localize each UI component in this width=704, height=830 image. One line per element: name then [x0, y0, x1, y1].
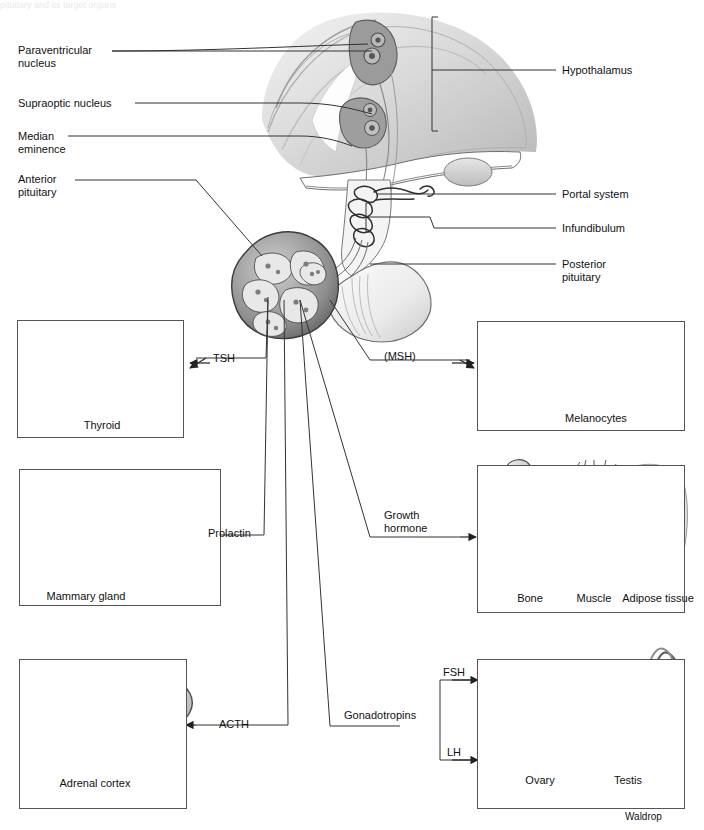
panel-gonads: [477, 659, 685, 809]
label-paraventricular-nucleus: Paraventricular nucleus: [18, 44, 92, 69]
arrow-msh: [460, 360, 474, 368]
caption-bone: Bone: [508, 592, 552, 604]
left-leader-lines: [68, 44, 372, 256]
label-supraoptic-nucleus: Supraoptic nucleus: [18, 97, 112, 110]
label-infundibulum: Infundibulum: [562, 222, 625, 235]
caption-thyroid: Thyroid: [62, 419, 142, 431]
hormone-label-acth: ACTH: [219, 718, 249, 731]
caption-muscle: Muscle: [568, 592, 620, 604]
hormone-arrows: [186, 358, 476, 725]
hormone-label-gonadotropins: Gonadotropins: [344, 709, 416, 722]
artist-signature: Waldrop: [625, 811, 662, 822]
hormone-label-growth-hormone: Growth hormone: [384, 509, 427, 534]
figure-canvas: pituitary and its target organs: [0, 0, 704, 830]
label-median-eminence: Median eminence: [18, 130, 66, 155]
label-posterior-pituitary: Posterior pituitary: [562, 258, 606, 283]
caption-testis: Testis: [600, 774, 656, 786]
label-portal-system: Portal system: [562, 188, 629, 201]
brain-sagittal-illustration: [262, 13, 537, 234]
hormone-label-lh: LH: [447, 746, 461, 759]
right-leader-lines: [366, 17, 556, 264]
infundibulum-and-portal-system: [232, 180, 434, 342]
hypothalamus-bracket: [432, 17, 438, 131]
infundibulum-bracket: [366, 203, 370, 232]
leader-infundibulum: [366, 217, 556, 228]
label-anterior-pituitary: Anterior pituitary: [18, 173, 57, 198]
caption-mammary-gland: Mammary gland: [40, 590, 132, 602]
hormone-label-fsh: FSH: [443, 666, 465, 679]
caption-ovary: Ovary: [512, 774, 568, 786]
panel-growth-targets: [477, 465, 685, 613]
leader-tsh: [206, 297, 268, 358]
caption-adrenal-cortex: Adrenal cortex: [48, 777, 142, 789]
figure-top-cutoff-text: pituitary and its target organs: [0, 0, 116, 10]
leader-growth-hormone: [300, 300, 460, 537]
caption-adipose-tissue: Adipose tissue: [618, 592, 698, 604]
hormone-label-msh: (MSH): [384, 350, 416, 363]
caption-melanocytes: Melanocytes: [559, 412, 633, 424]
panel-mammary: [19, 469, 221, 606]
label-hypothalamus: Hypothalamus: [562, 64, 632, 77]
arrow-tsh: [190, 358, 206, 368]
hormone-label-prolactin: Prolactin: [208, 527, 251, 540]
hormone-label-tsh: TSH: [213, 352, 235, 365]
